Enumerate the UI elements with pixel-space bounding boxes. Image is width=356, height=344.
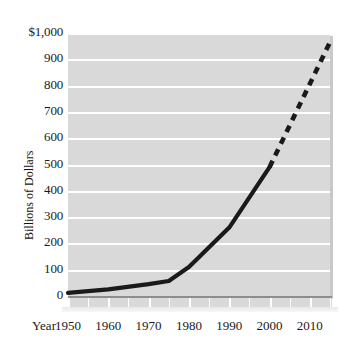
gridline (68, 243, 330, 245)
gridline (68, 270, 330, 272)
gridline (68, 138, 330, 140)
gridline (68, 59, 330, 61)
y-axis-tick-label: 900 (0, 50, 63, 66)
gridline (68, 86, 330, 88)
y-axis-tick-label: 100 (0, 261, 63, 277)
x-axis-tick-label: 1960 (86, 318, 130, 334)
y-axis-title: Billions of Dollars (22, 151, 37, 240)
y-axis-tick-label: 0 (0, 287, 63, 303)
x-axis-tick-label: 1970 (127, 318, 171, 334)
x-axis-minor-tick (249, 298, 250, 307)
x-axis-major-tick (310, 298, 312, 307)
chart-container: 0100200300400500600700800900$1,000 Billi… (0, 0, 356, 344)
x-axis-tick-label: 1980 (167, 318, 211, 334)
y-axis-tick-label: 700 (0, 103, 63, 119)
x-axis-tick-label: 2010 (288, 318, 332, 334)
x-axis-major-tick (149, 298, 151, 307)
gridline (68, 33, 330, 35)
gridline (68, 217, 330, 219)
gridline (68, 112, 330, 114)
x-axis-minor-tick (330, 298, 331, 307)
x-axis-tick-strip (68, 298, 332, 307)
y-axis-tick-label: 800 (0, 77, 63, 93)
x-axis-tick-label: 1950 (46, 318, 90, 334)
x-axis-minor-tick (290, 298, 291, 307)
axis-base-shadow (62, 307, 338, 312)
x-axis-major-tick (68, 298, 70, 307)
x-axis-major-tick (229, 298, 231, 307)
x-axis-major-tick (270, 298, 272, 307)
x-axis-minor-tick (128, 298, 129, 307)
x-axis-tick-label: 1990 (207, 318, 251, 334)
y-axis-tick-label: $1,000 (0, 24, 63, 40)
x-axis-minor-tick (88, 298, 89, 307)
x-axis-tick-label: 2000 (248, 318, 292, 334)
x-axis-minor-tick (209, 298, 210, 307)
gridline (68, 191, 330, 193)
y-axis-tick-label: 600 (0, 129, 63, 145)
x-axis-major-tick (108, 298, 110, 307)
x-axis-major-tick (189, 298, 191, 307)
plot-area (68, 33, 330, 296)
gridline (68, 165, 330, 167)
x-axis-minor-tick (169, 298, 170, 307)
